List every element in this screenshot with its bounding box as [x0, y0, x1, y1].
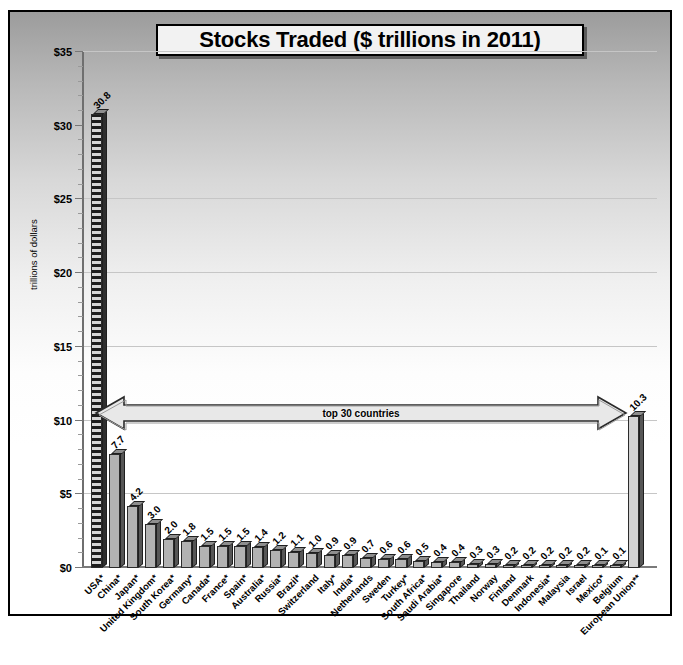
y-axis-tick-label: $30 [54, 120, 72, 132]
y-axis-title: trillions of dollars [28, 219, 39, 290]
annotation-label: top 30 countries [94, 393, 628, 433]
y-axis-tick-label: $15 [54, 341, 72, 353]
y-axis-tick-label: $0 [60, 562, 72, 574]
plot-area: $0$5$10$15$20$25$30$35 30.87.74.23.02.01… [82, 52, 657, 568]
y-axis-tick-label: $35 [54, 46, 72, 58]
x-axis-category-labels: USA*China*Japan*United Kingdom*South Kor… [82, 52, 657, 568]
y-axis-tick-label: $25 [54, 193, 72, 205]
page-title: Stocks Traded ($ trillions in 2011) [199, 27, 540, 53]
y-axis-tick-label: $10 [54, 415, 72, 427]
top-30-countries-annotation: top 30 countries [94, 393, 628, 433]
y-axis-tick-label: $5 [60, 488, 72, 500]
y-axis-tick-label: $20 [54, 267, 72, 279]
chart-frame: Stocks Traded ($ trillions in 2011) tril… [8, 10, 672, 616]
chart-screenshot: Stocks Traded ($ trillions in 2011) tril… [0, 0, 683, 665]
